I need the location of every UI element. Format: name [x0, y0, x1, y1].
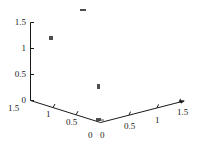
data-point-top[interactable] — [80, 9, 86, 11]
chart-canvas: 1.5 1 0.5 0 1.5 1 0.5 0 0 0.5 1 1.5 — [0, 0, 203, 152]
z-tick-label-1.5: 1.5 — [4, 18, 26, 27]
x-tick-1 — [53, 104, 55, 108]
data-point-origin[interactable] — [96, 118, 101, 121]
x-tick-label-0: 0 — [88, 131, 93, 140]
z-tick-label-1: 1 — [4, 44, 26, 53]
x-tick-label-1: 1 — [46, 110, 51, 119]
z-tick-label-0.5: 0.5 — [4, 70, 26, 79]
y-axis-line — [101, 101, 185, 123]
y-tick-label-0.5: 0.5 — [124, 122, 135, 131]
y-tick-label-1: 1 — [155, 116, 160, 125]
data-point-upper-left[interactable] — [49, 36, 53, 40]
x-tick-label-0.5: 0.5 — [66, 118, 77, 127]
x-tick-0.5 — [76, 111, 78, 115]
y-tick-label-0: 0 — [100, 131, 105, 140]
x-tick-label-1.5: 1.5 — [8, 104, 19, 113]
y-tick-label-1.5: 1.5 — [177, 108, 188, 117]
data-point-center[interactable] — [97, 84, 100, 89]
